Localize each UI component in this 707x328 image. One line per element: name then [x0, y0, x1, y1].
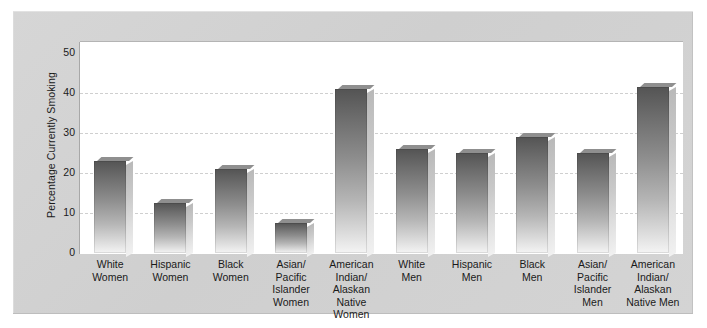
x-axis-label-line: Native	[321, 296, 381, 309]
x-axis-label: Asian/PacificIslanderMen	[562, 258, 622, 308]
bar[interactable]	[275, 223, 307, 253]
x-axis-label-line: Women	[140, 271, 200, 284]
x-axis-label-line: Women	[80, 271, 140, 284]
x-axis-label: Asian/PacificIslanderWomen	[261, 258, 321, 308]
bar-slot	[154, 53, 186, 253]
x-axis-label-line: Indian/	[623, 271, 683, 284]
bar-side-face	[488, 153, 495, 257]
x-axis-label-line: Asian/	[562, 258, 622, 271]
x-axis-label-line: Asian/	[261, 258, 321, 271]
plot-area	[80, 42, 683, 254]
bar-front-face	[94, 161, 126, 253]
bar-slot	[396, 53, 428, 253]
x-axis-label-line: Black	[502, 258, 562, 271]
bar-front-face	[456, 153, 488, 253]
bar[interactable]	[516, 137, 548, 253]
bar[interactable]	[577, 153, 609, 253]
bar-slot	[94, 53, 126, 253]
bar-front-face	[275, 223, 307, 253]
x-axis-label-line: Women	[201, 271, 261, 284]
x-axis-label: WhiteWomen	[80, 258, 140, 283]
x-axis-label: AmericanIndian/AlaskanNativeWomen	[321, 258, 381, 321]
bar-slot	[215, 53, 247, 253]
chart-panel: Percentage Currently Smoking 01020304050…	[13, 11, 693, 314]
bar-slot	[456, 53, 488, 253]
x-axis-label-line: Islander	[261, 283, 321, 296]
x-axis-label-line: Hispanic	[442, 258, 502, 271]
x-axis-label: AmericanIndian/AlaskanNative Men	[623, 258, 683, 308]
x-axis-label-line: American	[321, 258, 381, 271]
bar-series	[80, 53, 683, 253]
x-axis-label-line: Men	[562, 296, 622, 309]
x-axis-label: BlackWomen	[201, 258, 261, 283]
bar[interactable]	[637, 87, 669, 253]
bar-front-face	[215, 169, 247, 253]
bar-front-face	[637, 87, 669, 253]
x-axis-label-line: Men	[502, 271, 562, 284]
bar-side-face	[126, 161, 133, 257]
bar[interactable]	[396, 149, 428, 253]
y-tick-label: 40	[43, 87, 75, 98]
bar-front-face	[516, 137, 548, 253]
x-axis-label-line: Hispanic	[140, 258, 200, 271]
y-tick-label: 0	[43, 247, 75, 258]
bar-side-face	[428, 149, 435, 257]
bar-front-face	[154, 203, 186, 253]
bar-side-face	[548, 137, 555, 257]
y-tick-label: 10	[43, 207, 75, 218]
plot-inner	[80, 53, 683, 253]
y-tick-label: 50	[43, 47, 75, 58]
bar[interactable]	[335, 89, 367, 253]
bar-front-face	[335, 89, 367, 253]
x-axis-label-line: Alaskan	[623, 283, 683, 296]
bar-slot	[577, 53, 609, 253]
bar-side-face	[367, 89, 374, 257]
bar[interactable]	[94, 161, 126, 253]
x-axis-label-line: Men	[382, 271, 442, 284]
bar-side-face	[186, 203, 193, 257]
x-axis-label-line: White	[80, 258, 140, 271]
x-axis-label-line: Women	[321, 308, 381, 321]
x-axis-label-line: White	[382, 258, 442, 271]
figure-root: Percentage Currently Smoking 01020304050…	[0, 0, 707, 328]
x-axis-label-line: Native Men	[623, 296, 683, 309]
bar-side-face	[669, 87, 676, 257]
x-axis-label-line: Alaskan	[321, 283, 381, 296]
y-tick-label: 30	[43, 127, 75, 138]
x-axis-label-line: Pacific	[261, 271, 321, 284]
bar[interactable]	[456, 153, 488, 253]
x-axis-category-labels: WhiteWomenHispanicWomenBlackWomenAsian/P…	[80, 258, 683, 320]
x-axis-label: HispanicMen	[442, 258, 502, 283]
bar-slot	[516, 53, 548, 253]
x-axis-label-line: Black	[201, 258, 261, 271]
bar-front-face	[396, 149, 428, 253]
x-axis-label-line: American	[623, 258, 683, 271]
y-axis-tick-labels: 01020304050	[43, 42, 75, 254]
bar-side-face	[609, 153, 616, 257]
bar-slot	[275, 53, 307, 253]
x-axis-label-line: Indian/	[321, 271, 381, 284]
x-axis-label-line: Women	[261, 296, 321, 309]
x-axis-label: BlackMen	[502, 258, 562, 283]
x-axis-label: HispanicWomen	[140, 258, 200, 283]
x-axis-label: WhiteMen	[382, 258, 442, 283]
bar-slot	[637, 53, 669, 253]
bar-slot	[335, 53, 367, 253]
bar[interactable]	[215, 169, 247, 253]
x-axis-label-line: Pacific	[562, 271, 622, 284]
y-tick-label: 20	[43, 167, 75, 178]
bar-side-face	[247, 169, 254, 257]
bar-side-face	[307, 223, 314, 257]
x-axis-label-line: Islander	[562, 283, 622, 296]
bar[interactable]	[154, 203, 186, 253]
bar-front-face	[577, 153, 609, 253]
x-axis-label-line: Men	[442, 271, 502, 284]
